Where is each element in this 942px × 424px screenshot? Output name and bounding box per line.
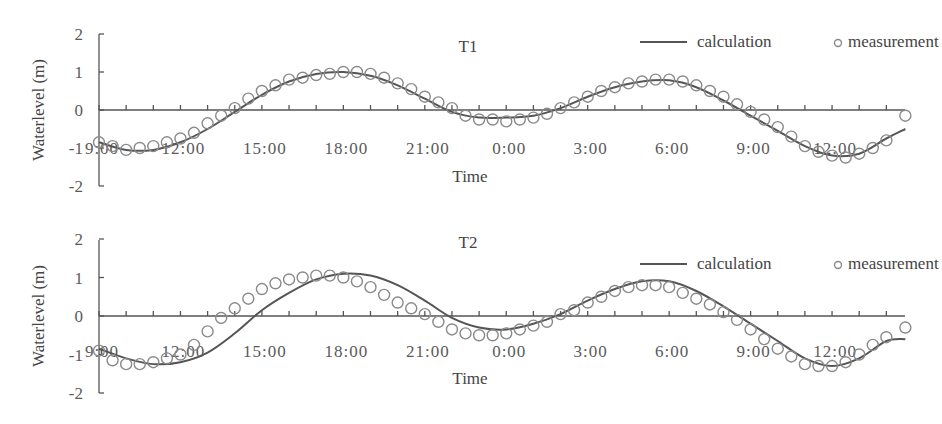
panel-title: T2 [459, 233, 478, 252]
measurement-point [813, 361, 824, 372]
x-axis-title: Time [452, 369, 487, 388]
measurement-point [900, 110, 911, 121]
measurement-point [243, 293, 254, 304]
x-tick-label: 0:00 [492, 139, 526, 158]
x-tick-label: 21:00 [406, 139, 450, 158]
measurement-point [460, 328, 471, 339]
measurement-point [202, 326, 213, 337]
measurement-point [256, 284, 267, 295]
y-tick-label: -1 [69, 346, 83, 365]
x-tick-label: 6:00 [655, 139, 689, 158]
y-tick-label: 1 [75, 269, 84, 288]
panel-title: T1 [459, 37, 478, 56]
x-tick-label: 6:00 [655, 342, 689, 361]
measurement-point [487, 114, 498, 125]
waterlevel-figure: 210-1-29:0012:0015:0018:0021:000:003:006… [0, 0, 942, 424]
measurement-point [677, 287, 688, 298]
y-tick-label: 0 [75, 307, 84, 326]
measurement-point [446, 324, 457, 335]
measurement-point [284, 274, 295, 285]
x-tick-label: 12:00 [162, 342, 206, 361]
y-tick-label: 0 [75, 101, 84, 120]
measurement-point [528, 112, 539, 123]
legend-circle-icon [835, 262, 842, 269]
legend: calculationmeasurement [640, 254, 939, 273]
measurement-point [664, 282, 675, 293]
measurement-point [270, 278, 281, 289]
legend-calculation-label: calculation [697, 254, 772, 273]
measurement-point [514, 324, 525, 335]
chart-canvas: 210-1-29:0012:0015:0018:0021:000:003:006… [0, 0, 942, 424]
x-tick-label: 9:00 [736, 139, 770, 158]
y-tick-label: -2 [69, 177, 83, 196]
measurement-point [799, 359, 810, 370]
y-axis-title: Waterlevel (m) [29, 59, 48, 161]
x-tick-label: 18:00 [324, 139, 368, 158]
x-tick-label: 3:00 [574, 139, 608, 158]
x-tick-label: 21:00 [406, 342, 450, 361]
measurement-point [900, 322, 911, 333]
measurement-point [433, 316, 444, 327]
legend-measurement-label: measurement [848, 32, 939, 51]
measurement-point [379, 289, 390, 300]
measurement-point [487, 330, 498, 341]
x-tick-label: 9:00 [85, 139, 119, 158]
legend: calculationmeasurement [640, 32, 939, 51]
y-tick-label: 2 [75, 25, 84, 44]
measurement-point [474, 330, 485, 341]
measurement-point [324, 68, 335, 79]
measurement-point [148, 357, 159, 368]
x-tick-label: 12:00 [813, 342, 857, 361]
measurement-point [216, 312, 227, 323]
y-tick-label: 1 [75, 63, 84, 82]
y-tick-label: -1 [69, 139, 83, 158]
measurement-point [623, 282, 634, 293]
measurement-point [134, 359, 145, 370]
y-axis-title: Waterlevel (m) [29, 265, 48, 367]
x-axis-title: Time [452, 167, 487, 186]
measurement-point [745, 324, 756, 335]
measurement-point [121, 359, 132, 370]
x-tick-label: 18:00 [324, 342, 368, 361]
measurement-point [406, 303, 417, 314]
legend-circle-icon [835, 40, 842, 47]
measurement-point [704, 299, 715, 310]
legend-measurement-label: measurement [848, 254, 939, 273]
measurement-point [786, 351, 797, 362]
measurement-point [297, 272, 308, 283]
y-tick-label: 2 [75, 230, 84, 249]
x-tick-label: 9:00 [85, 342, 119, 361]
measurement-point [474, 114, 485, 125]
measurement-point [514, 114, 525, 125]
y-tick-label: -2 [69, 384, 83, 403]
panel-t2: 210-1-29:0012:0015:0018:0021:000:003:006… [29, 230, 939, 403]
x-tick-label: 15:00 [243, 139, 287, 158]
measurement-point [541, 316, 552, 327]
x-tick-label: 15:00 [243, 342, 287, 361]
x-tick-label: 0:00 [492, 342, 526, 361]
measurement-point [365, 282, 376, 293]
panel-t1: 210-1-29:0012:0015:0018:0021:000:003:006… [29, 25, 939, 196]
measurement-point [392, 297, 403, 308]
legend-calculation-label: calculation [697, 32, 772, 51]
measurement-point [650, 280, 661, 291]
measurement-point [772, 343, 783, 354]
measurement-point [691, 293, 702, 304]
measurement-point [351, 276, 362, 287]
measurement-point [202, 118, 213, 129]
x-tick-label: 3:00 [574, 342, 608, 361]
